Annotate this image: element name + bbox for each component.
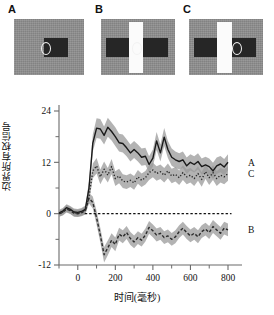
x-tick-label: 600 [183, 273, 198, 283]
y-tick-label: 12 [42, 158, 52, 168]
fixation-ring [132, 42, 142, 55]
series-label-a: A [248, 158, 255, 168]
stimulus-panel-c: C [183, 4, 267, 92]
chart-panel: 边界所有权信号 -12012240200400600800ACB 时间(毫秒) [0, 95, 274, 315]
stimulus-image-c [189, 19, 263, 75]
stimulus-panel-b: B [95, 4, 175, 92]
series-label-c: C [248, 169, 254, 179]
bright-bar-middle [217, 36, 232, 59]
fixation-ring [41, 42, 51, 55]
series-label-b: B [248, 225, 254, 235]
stimulus-panel-a: A [8, 4, 86, 92]
y-axis-label: 边界所有权信号 [2, 121, 16, 191]
y-tick-label: 0 [46, 209, 51, 219]
stimulus-image-a [14, 19, 84, 75]
x-tick-label: 200 [108, 273, 123, 283]
panel-letter-a: A [8, 4, 16, 15]
panel-letter-b: B [95, 4, 103, 15]
dark-bar-left [194, 38, 218, 57]
x-tick-label: 800 [221, 273, 236, 283]
stimulus-image-b [101, 19, 175, 75]
x-axis-label: 时间(毫秒) [0, 289, 274, 304]
panel-letter-c: C [183, 4, 191, 15]
x-tick-label: 400 [146, 273, 161, 283]
y-tick-label: -12 [38, 260, 51, 270]
fixation-ring [232, 42, 242, 55]
bright-bar-bottom [217, 59, 232, 73]
bright-bar-top [217, 22, 232, 36]
figure: A B C [0, 0, 274, 315]
time-course-chart: -12012240200400600800ACB [0, 95, 274, 295]
y-tick-label: 24 [42, 106, 52, 116]
stimulus-panels: A B C [0, 0, 274, 95]
x-tick-label: 0 [75, 273, 80, 283]
error-band-b [59, 193, 228, 262]
